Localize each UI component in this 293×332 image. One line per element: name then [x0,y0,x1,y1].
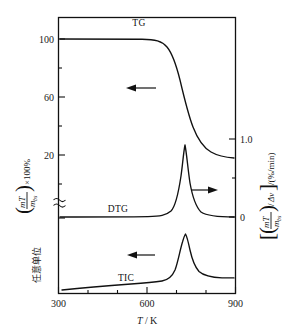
right-axis-numerator: mT [261,216,271,228]
right-axis-ticks [229,139,236,217]
dtg-curve [60,145,234,217]
x-axis-title-symbol: T [137,315,144,326]
x-tick-label-900: 900 [228,298,243,309]
right-axis-denominator-sub: bs [276,215,282,221]
tg-arrow [126,85,156,92]
x-tick-label-300: 300 [51,298,66,309]
left-axis-multiplier: ×100% [22,158,32,185]
dtg-arrow [191,187,218,194]
dtg-curve-label: DTG [108,204,128,214]
right-tick-label-1p0: 1.0 [240,134,253,145]
left-tick-label-20: 20 [44,150,54,161]
right-axis-unit: /(%/min) [266,153,276,186]
svg-text:任意单位: 任意单位 [31,247,42,283]
left-axis-numerator: mT [17,196,27,208]
tic-arrow [127,252,155,259]
left-axis-paren-close: ) [11,185,35,192]
tic-curve-label: TIC [118,273,134,283]
chart-svg: 300 600 900 T / K 100 60 20 [0,0,293,332]
plot-frame [59,18,236,294]
right-axis-divisor: Δv [266,193,276,203]
x-axis-title: T / K [137,315,158,326]
tg-curve [60,39,234,158]
lower-axis-title: 任意单位 [31,247,42,283]
x-axis-title-sep: / [145,315,148,326]
x-tick-label-600: 600 [140,298,155,309]
tg-curve-label: TG [132,18,145,28]
thermal-analysis-chart: 300 600 900 T / K 100 60 20 [0,0,293,332]
left-tick-label-60: 60 [44,92,54,103]
right-tick-label-0: 0 [240,212,245,223]
left-axis-break-icon [54,198,66,207]
left-axis-denominator-sub: bs [32,195,38,201]
left-tick-label-100: 100 [39,34,54,45]
left-axis-title: ( mT m bs ) ×100% [11,158,38,214]
x-axis-title-unit: K [150,315,158,326]
right-axis-title: [ ( mT m bs ) / Δv ] /(%/min) [255,153,282,241]
tic-curve [62,234,234,290]
left-axis-ticks [59,39,66,218]
right-axis-slash: / [266,203,276,206]
